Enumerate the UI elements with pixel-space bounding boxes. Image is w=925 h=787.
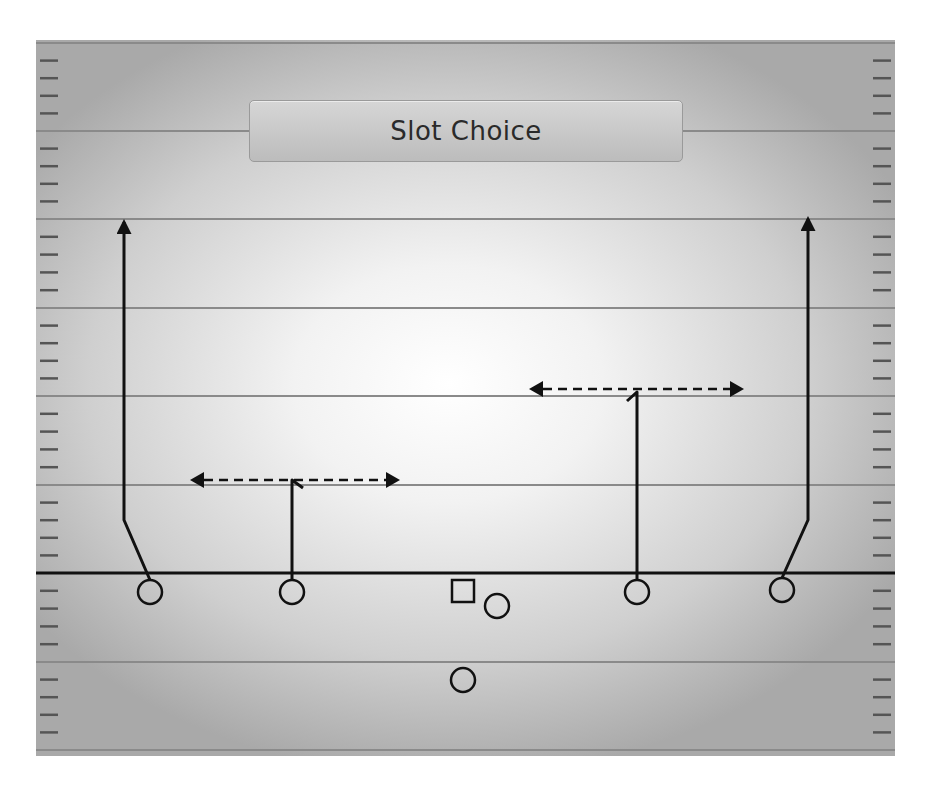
player-wr-right-circle-icon (770, 578, 794, 602)
player-slot-right-circle-icon (625, 580, 649, 604)
play-title: Slot Choice (390, 116, 542, 146)
players (138, 578, 794, 692)
player-center-square-icon (452, 580, 474, 602)
player-slot-left-circle-icon (280, 580, 304, 604)
player-running-back-circle-icon (451, 668, 475, 692)
arrowhead-right-icon (730, 381, 744, 397)
play-title-box: Slot Choice (249, 100, 683, 162)
route-slot-left-stem (292, 480, 303, 580)
route-wr-right-go (782, 219, 808, 578)
player-qb-offset-circle-icon (485, 594, 509, 618)
player-wr-left-circle-icon (138, 580, 162, 604)
arrowhead-left-icon (529, 381, 543, 397)
route-wr-left-go (124, 222, 150, 580)
routes (124, 219, 808, 580)
